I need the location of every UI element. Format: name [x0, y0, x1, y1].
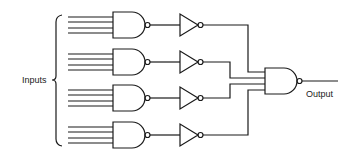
- circuit-diagram: [0, 0, 356, 160]
- nand-gate-2: [68, 49, 180, 75]
- inputs-brace: [52, 15, 62, 146]
- nand-gate-3: [68, 85, 180, 111]
- inverter-3: [180, 84, 265, 109]
- inverter-2: [180, 51, 265, 78]
- inverter-1: [180, 14, 265, 72]
- nand-gate-4: [68, 122, 180, 148]
- inputs-label: Inputs: [22, 75, 47, 85]
- nand-gate-1: [68, 12, 180, 38]
- output-label: Output: [306, 89, 333, 99]
